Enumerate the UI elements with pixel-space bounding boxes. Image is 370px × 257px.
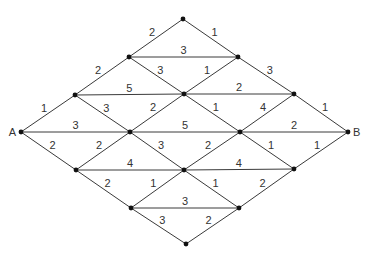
node-n33 [292, 92, 297, 97]
edge-weight-label: 3 [103, 102, 109, 114]
node-n51 [74, 168, 79, 173]
edge-weight-label: 4 [127, 157, 133, 169]
edge-weight-label: 2 [95, 64, 101, 76]
edge-weight-label: 2 [96, 139, 102, 151]
edge-weight-label: 2 [149, 26, 155, 38]
node-B [346, 130, 351, 135]
node-n43 [238, 130, 243, 135]
edge-A-n31 [21, 95, 75, 132]
edge-weight-label: 2 [49, 139, 55, 151]
edge-weight-label: 1 [211, 26, 217, 38]
edge-weight-label: 1 [150, 177, 156, 189]
edge-weight-label: 4 [260, 101, 266, 113]
node-label-B: B [353, 126, 360, 138]
edge-weight-label: 1 [204, 64, 210, 76]
edge-weight-label: 2 [150, 101, 156, 113]
edge-n32-n42 [130, 94, 184, 132]
edge-weight-label: 2 [205, 139, 211, 151]
edge-n31-n32 [75, 94, 184, 95]
edge-weight-label: 2 [236, 81, 242, 93]
edge-n42-n51 [76, 132, 130, 170]
edge-weight-label: 1 [314, 139, 320, 151]
edge-n33-n43 [240, 94, 294, 132]
node-label-A: A [9, 126, 17, 138]
edge-n53-n62 [239, 169, 294, 208]
edge-weight-label: 2 [206, 214, 212, 226]
weighted-graph-diagram: 213231352132141352223211442112332 AB [0, 0, 370, 257]
edge-weight-label: 3 [159, 214, 165, 226]
edge-weight-label: 3 [157, 64, 163, 76]
edge-weight-label: 3 [267, 64, 273, 76]
edge-weight-label: 3 [158, 139, 164, 151]
edge-n62-Bot [186, 208, 239, 244]
edge-n43-n52 [184, 132, 240, 170]
edge-B-n53 [294, 132, 348, 169]
edge-weight-label: 5 [182, 119, 188, 131]
edge-n52-n53 [184, 169, 294, 170]
edge-weight-label: 2 [259, 177, 265, 189]
edge-weight-label: 1 [213, 101, 219, 113]
edge-weight-label: 3 [182, 195, 188, 207]
node-n21 [127, 55, 132, 60]
edge-n21-n31 [75, 57, 129, 95]
edge-weight-label: 2 [291, 119, 297, 131]
edge-weights-layer: 213231352132141352223211442112332 [41, 26, 328, 226]
edge-weight-label: 2 [104, 177, 110, 189]
node-n61 [129, 206, 134, 211]
edge-weight-label: 4 [236, 157, 242, 169]
node-n52 [182, 168, 187, 173]
edge-weight-label: 1 [268, 139, 274, 151]
edge-n22-n32 [184, 57, 238, 94]
edge-weight-label: 5 [126, 82, 132, 94]
node-A [19, 130, 24, 135]
node-n31 [73, 93, 78, 98]
edge-n52-n61 [131, 170, 184, 208]
node-Bot [184, 242, 189, 247]
edge-T-n21 [129, 19, 183, 57]
edge-weight-label: 1 [322, 101, 328, 113]
node-n53 [292, 167, 297, 172]
node-n62 [237, 206, 242, 211]
node-T [181, 17, 186, 22]
edge-weight-label: 1 [41, 102, 47, 114]
edge-weight-label: 1 [212, 177, 218, 189]
node-n42 [128, 130, 133, 135]
edge-weight-label: 3 [72, 119, 78, 131]
edge-weight-label: 3 [180, 44, 186, 56]
node-n32 [182, 92, 187, 97]
node-n22 [236, 55, 241, 60]
